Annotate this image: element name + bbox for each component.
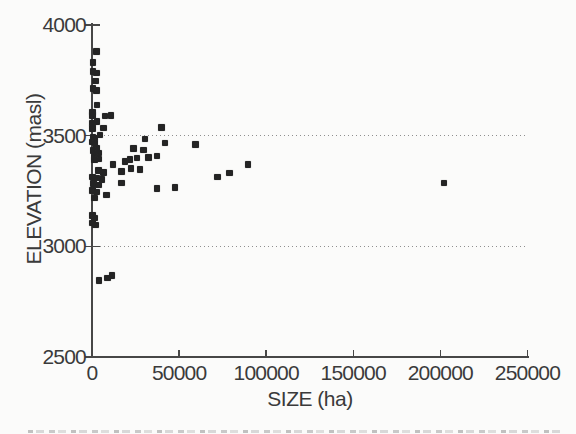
- data-point: [172, 184, 179, 191]
- data-point: [192, 141, 199, 148]
- x-axis-line: [92, 356, 529, 358]
- x-axis-title: SIZE (ha): [267, 387, 352, 411]
- data-point: [92, 78, 99, 85]
- data-point: [103, 192, 110, 199]
- x-tick-label-0: 0: [47, 362, 137, 384]
- data-point: [137, 166, 144, 173]
- data-point: [158, 124, 165, 131]
- data-point: [108, 112, 115, 119]
- x-tick-50000: [178, 350, 179, 357]
- data-point: [93, 87, 100, 94]
- data-point: [91, 157, 98, 164]
- data-point: [93, 48, 100, 55]
- data-point: [100, 169, 107, 176]
- data-point: [89, 125, 96, 132]
- data-point: [145, 154, 152, 161]
- data-point: [122, 158, 129, 165]
- data-point: [226, 170, 233, 177]
- y-gridline-3000: [92, 246, 528, 247]
- data-point: [154, 185, 161, 192]
- data-point: [93, 70, 100, 77]
- x-tick-0: [91, 350, 92, 357]
- y-tick-label-4000: 4000: [24, 14, 86, 36]
- x-tick-label-150000: 150000: [308, 362, 398, 384]
- x-tick-200000: [440, 350, 441, 357]
- x-tick-250000: [527, 350, 528, 357]
- data-point: [162, 140, 169, 147]
- data-point: [91, 195, 98, 202]
- x-tick-label-100000: 100000: [221, 362, 311, 384]
- data-point: [118, 180, 125, 187]
- data-point: [441, 180, 448, 187]
- data-point: [96, 277, 103, 284]
- y-tick-2500: [85, 356, 100, 357]
- x-tick-label-250000: 250000: [482, 362, 572, 384]
- data-point: [154, 153, 161, 160]
- data-point: [90, 59, 97, 66]
- y-tick-3000: [85, 246, 100, 247]
- data-point: [214, 174, 221, 181]
- data-point: [94, 102, 101, 109]
- data-point: [100, 125, 107, 132]
- data-point: [134, 155, 141, 162]
- data-point: [140, 147, 147, 154]
- x-tick-100000: [265, 350, 266, 357]
- data-point: [142, 136, 149, 143]
- y-tick-label-3000: 3000: [24, 235, 86, 257]
- y-tick-4000: [85, 24, 100, 25]
- data-point: [109, 272, 116, 279]
- x-tick-label-200000: 200000: [395, 362, 485, 384]
- data-point: [128, 165, 135, 172]
- data-point: [110, 161, 117, 168]
- data-point: [95, 182, 102, 189]
- y-gridline-3500: [92, 135, 528, 136]
- scatter-plot-figure: ELEVATION (masl) SIZE (ha) 2500300035004…: [0, 0, 576, 434]
- data-point: [130, 145, 137, 152]
- x-tick-150000: [353, 350, 354, 357]
- y-tick-label-3500: 3500: [24, 125, 86, 147]
- data-point: [245, 161, 252, 168]
- data-point: [118, 168, 125, 175]
- cropped-caption-text-fragment: [28, 430, 562, 433]
- x-tick-label-50000: 50000: [134, 362, 224, 384]
- data-point: [92, 222, 99, 229]
